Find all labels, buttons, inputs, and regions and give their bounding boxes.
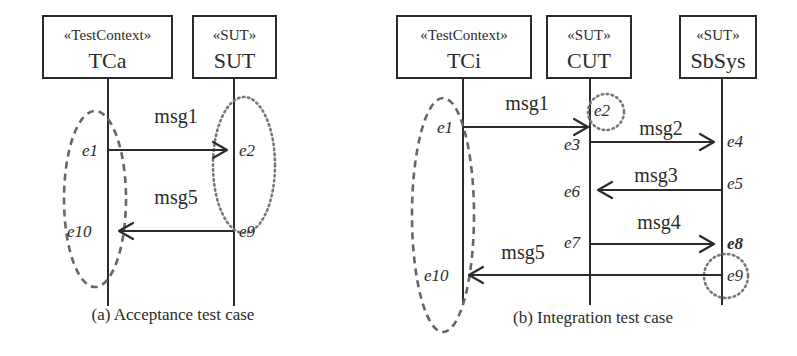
lifeline-head-cut: «SUT» CUT	[547, 16, 631, 78]
lifeline-name: TCa	[89, 48, 127, 73]
event-e1: e1	[82, 141, 98, 160]
lifeline-head-sut: «SUT» SUT	[193, 16, 276, 78]
stereotype-label: «SUT»	[213, 27, 256, 43]
lifeline-name: TCi	[447, 48, 481, 73]
stereotype-label: «TestContext»	[420, 27, 507, 43]
lifeline-head-tca: «TestContext» TCa	[43, 16, 172, 78]
message-label: msg1	[154, 105, 197, 128]
dotted-event-group-sut	[213, 97, 275, 233]
message-msg5: msg5	[469, 241, 721, 283]
event-e5: e5	[727, 174, 743, 193]
caption-b: (b) Integration test case	[513, 308, 673, 327]
message-label: msg5	[154, 186, 197, 209]
dashed-event-group-tca	[64, 111, 126, 287]
event-e7: e7	[564, 233, 582, 252]
message-msg2: msg2	[591, 117, 714, 150]
event-e9: e9	[727, 266, 744, 285]
stereotype-label: «TestContext»	[64, 27, 151, 43]
lifeline-name: CUT	[567, 48, 612, 73]
message-label: msg2	[639, 117, 682, 140]
event-e3: e3	[564, 135, 580, 154]
caption-a: (a) Acceptance test case	[92, 305, 255, 324]
panel-b-integration-test-case: «TestContext» TCi «SUT» CUT «SUT» SbSys …	[397, 16, 756, 332]
event-e6: e6	[564, 182, 581, 201]
event-e10: e10	[67, 222, 92, 241]
message-msg1: msg1	[109, 105, 227, 158]
message-label: msg1	[505, 92, 548, 115]
lifeline-head-tci: «TestContext» TCi	[397, 16, 531, 78]
lifeline-head-sbsys: «SUT» SbSys	[680, 16, 756, 78]
event-e9: e9	[239, 222, 256, 241]
event-e8: e8	[727, 234, 744, 253]
sequence-diagrams-figure: «TestContext» TCa «SUT» SUT msg1 msg5 e1…	[0, 0, 797, 356]
event-e1: e1	[437, 118, 453, 137]
message-label: msg5	[501, 241, 544, 264]
message-msg3: msg3	[598, 164, 721, 198]
stereotype-label: «SUT»	[696, 27, 739, 43]
event-e10: e10	[424, 266, 449, 285]
event-e2: e2	[239, 141, 256, 160]
message-msg1: msg1	[464, 92, 588, 135]
message-label: msg3	[634, 164, 677, 187]
panel-a-acceptance-test-case: «TestContext» TCa «SUT» SUT msg1 msg5 e1…	[43, 16, 276, 324]
stereotype-label: «SUT»	[567, 27, 610, 43]
lifeline-name: SbSys	[690, 48, 745, 73]
lifeline-name: SUT	[214, 48, 256, 73]
message-msg4: msg4	[591, 211, 714, 252]
event-e2: e2	[594, 101, 611, 120]
event-e4: e4	[727, 132, 744, 151]
message-label: msg4	[637, 211, 680, 234]
